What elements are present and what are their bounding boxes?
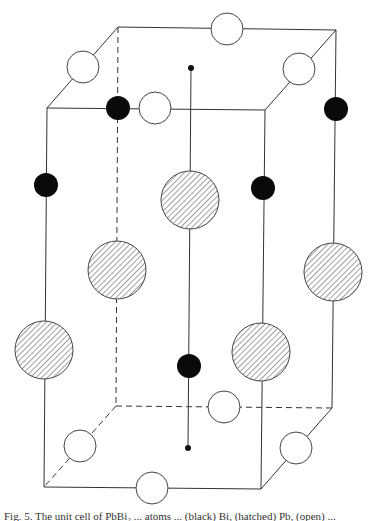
open-atom [67, 51, 99, 83]
hatched-atom [232, 323, 290, 381]
black-atom [177, 354, 201, 378]
open-atom [139, 92, 171, 124]
hatched-atom [304, 243, 362, 301]
unit-cell-figure [0, 0, 375, 521]
hatched-atom [161, 171, 219, 229]
open-atom [136, 472, 168, 504]
axis-line [188, 68, 191, 448]
hatched-atom [88, 241, 146, 299]
open-atom [283, 53, 315, 85]
central-axis [185, 65, 194, 451]
black-atom [324, 97, 348, 121]
figure-caption: Fig. 5. The unit cell of PbBi₂ ... atoms… [4, 510, 374, 521]
black-atom [34, 173, 58, 197]
edge-vertical-back-left [116, 27, 118, 406]
edge-vertical-front-right [261, 110, 265, 489]
edge-vertical-back-right [332, 30, 336, 408]
black-atom [106, 96, 130, 120]
axis-top-dot [188, 65, 194, 71]
black-atom [251, 176, 275, 200]
open-atom [64, 430, 96, 462]
edge-vertical-front-left [44, 108, 47, 487]
open-atom [208, 391, 240, 423]
open-atom [280, 432, 312, 464]
hatched-atom [15, 321, 73, 379]
axis-bottom-dot [185, 445, 191, 451]
open-atom [211, 13, 243, 45]
